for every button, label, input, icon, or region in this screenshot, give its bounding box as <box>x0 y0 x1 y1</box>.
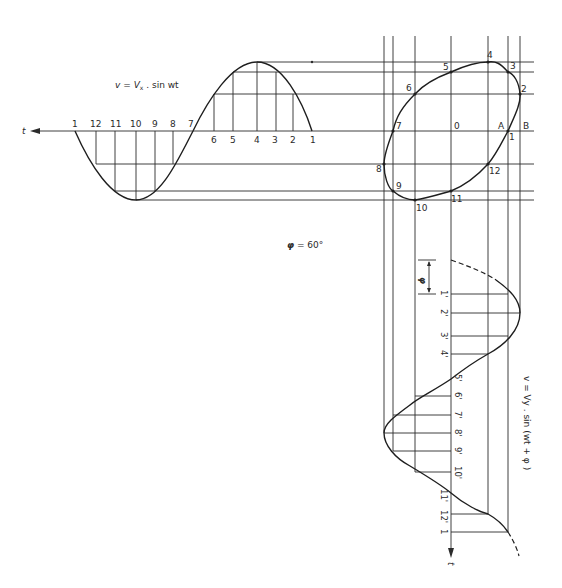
svg-text:9: 9 <box>396 181 402 191</box>
wave1-bottom-labels: 6 5 4 3 2 1 <box>211 135 316 145</box>
t-axis-label-bottom: t <box>446 562 456 566</box>
svg-text:2: 2 <box>290 135 296 145</box>
svg-text:10': 10' <box>453 466 463 479</box>
svg-text:1: 1 <box>310 135 316 145</box>
svg-text:1: 1 <box>72 119 78 129</box>
phase-label: φ = 60° <box>287 240 323 250</box>
wave2-dashed-tail <box>508 532 519 556</box>
svg-text:7: 7 <box>188 119 194 129</box>
center-label: 0 <box>454 121 460 131</box>
svg-text:11': 11' <box>439 489 449 502</box>
wave2-equation: v = Vy . sin (wt + φ ) <box>522 376 532 470</box>
svg-text:7: 7 <box>396 121 402 131</box>
wave1-top-labels: 1 12 11 10 9 8 7 <box>72 119 194 129</box>
svg-text:12: 12 <box>489 166 500 176</box>
arrow-left-icon <box>30 128 40 134</box>
svg-text:1: 1 <box>509 132 515 142</box>
svg-text:4': 4' <box>439 350 449 358</box>
svg-text:5': 5' <box>453 374 463 382</box>
svg-text:7': 7' <box>453 411 463 419</box>
svg-text:8': 8' <box>453 429 463 437</box>
svg-text:11: 11 <box>110 119 121 129</box>
label-a: A <box>498 121 505 131</box>
diagram-canvas: v = Vx . sin wt t 1 12 11 10 9 8 7 6 5 4… <box>0 0 562 588</box>
svg-text:9': 9' <box>453 447 463 455</box>
svg-text:5: 5 <box>443 62 449 72</box>
wave1-equation: v = Vx . sin wt <box>115 80 179 91</box>
svg-text:9: 9 <box>152 119 158 129</box>
svg-text:3: 3 <box>510 61 516 71</box>
arrow-down-icon <box>448 548 454 558</box>
svg-text:1': 1' <box>439 290 449 298</box>
svg-text:2': 2' <box>439 309 449 317</box>
ellipse-labels: 1 2 3 4 5 6 7 8 9 10 11 12 0 A B <box>376 50 529 213</box>
wave2-ordinates <box>384 294 520 532</box>
svg-text:10: 10 <box>130 119 142 129</box>
svg-text:8: 8 <box>376 164 382 174</box>
label-b: B <box>523 121 529 131</box>
phase-bracket-label: φ <box>418 277 428 284</box>
svg-text:3': 3' <box>439 332 449 340</box>
wave2-dashed-lead <box>451 260 496 280</box>
t-axis-label-left: t <box>22 126 26 136</box>
wave2-curve <box>384 280 520 532</box>
svg-text:6: 6 <box>211 135 217 145</box>
arrow-up-icon <box>427 261 431 266</box>
vertical-projection-lines <box>384 36 520 532</box>
lissajous-diagram: v = Vx . sin wt t 1 12 11 10 9 8 7 6 5 4… <box>0 0 562 588</box>
svg-text:1: 1 <box>439 529 449 534</box>
marker-dot <box>311 61 313 63</box>
arrow-down-icon <box>427 288 431 293</box>
svg-text:4: 4 <box>254 135 260 145</box>
svg-text:6': 6' <box>453 392 463 400</box>
svg-text:11: 11 <box>451 194 462 204</box>
svg-text:12: 12 <box>90 119 101 129</box>
svg-text:3: 3 <box>272 135 278 145</box>
svg-text:2: 2 <box>521 84 527 94</box>
svg-text:5: 5 <box>230 135 236 145</box>
svg-text:8: 8 <box>170 119 176 129</box>
svg-text:10: 10 <box>416 203 428 213</box>
svg-text:6: 6 <box>406 83 412 93</box>
svg-text:12': 12' <box>439 510 449 523</box>
svg-text:4: 4 <box>487 50 493 60</box>
